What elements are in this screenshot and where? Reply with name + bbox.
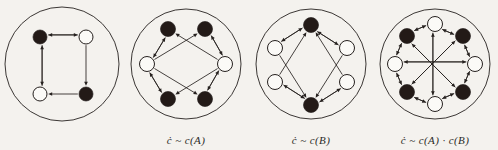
graph-edge: [319, 33, 338, 45]
edge-arrowhead: [298, 28, 302, 32]
graph-edge: [177, 69, 217, 94]
panel-caption-1: ċ ~ c(A): [124, 134, 248, 146]
panel-boundary-circle: [5, 7, 119, 121]
node-layer: [388, 17, 483, 112]
edge-arrowhead: [48, 92, 52, 96]
graph-node-white: [388, 57, 403, 72]
graph-canvas-2: [249, 2, 373, 126]
edge-layer: [280, 28, 343, 102]
graph-edge: [321, 88, 340, 100]
panel-caption-3: ċ ~ c(A) · c(B): [373, 134, 497, 146]
graph-node-black: [400, 85, 415, 100]
edge-arrowhead: [431, 33, 435, 37]
graph-edge: [281, 29, 300, 41]
panel-cover-graph-a: ċ ~ c(A): [124, 0, 248, 150]
graph-edge: [317, 34, 343, 74]
graph-node-white: [428, 17, 443, 32]
node-layer: [268, 18, 355, 113]
graph-edge: [154, 35, 195, 60]
node-layer: [140, 22, 233, 107]
graph-node-white: [428, 97, 443, 112]
panel-cover-graph-a-times-b: ċ ~ c(A) · c(B): [373, 0, 497, 150]
graph-edge: [211, 36, 221, 54]
edge-arrowhead: [84, 82, 88, 86]
graph-edge: [154, 38, 165, 56]
edge-arrowhead: [319, 98, 323, 102]
graph-node-black: [456, 29, 471, 44]
graph-node-white: [468, 57, 483, 72]
graph-node-black: [400, 29, 415, 44]
graph-edge: [413, 45, 455, 87]
graph-node-black: [456, 85, 471, 100]
graph-node-black: [198, 92, 213, 107]
edge-layer: [40, 33, 88, 96]
panel-cover-graph-b: ċ ~ c(B): [249, 0, 373, 150]
graph-node-white: [268, 41, 283, 56]
graph-node-black: [304, 98, 319, 113]
graph-edge: [280, 55, 306, 95]
graph-node-white: [33, 87, 47, 101]
graph-node-black: [79, 87, 93, 101]
graph-canvas-0: [0, 2, 124, 126]
graph-node-black: [161, 92, 176, 107]
graph-canvas-1: [124, 2, 248, 126]
panel-base-directed-4-cycle: [0, 0, 124, 150]
graph-node-white: [79, 30, 93, 44]
graph-node-white: [268, 75, 283, 90]
graph-canvas-3: [373, 2, 497, 126]
graph-node-white: [140, 57, 155, 72]
graph-edge: [151, 74, 162, 92]
graph-edge: [207, 72, 217, 90]
panel-caption-2: ċ ~ c(B): [249, 134, 373, 146]
graph-node-white: [340, 41, 355, 56]
edge-arrowhead: [74, 33, 78, 37]
graph-node-white: [340, 75, 355, 90]
edge-arrowhead: [462, 60, 466, 64]
graph-node-white: [218, 57, 233, 72]
graph-node-black: [161, 22, 176, 37]
edge-layer: [150, 33, 223, 94]
graph-node-black: [33, 30, 47, 44]
graph-node-black: [198, 22, 213, 37]
graph-covers-figure: ċ ~ c(A) ċ ~ c(B) ċ ~ c(A) · c(B): [0, 0, 498, 150]
edge-arrowhead: [40, 82, 44, 86]
graph-edge: [283, 85, 302, 97]
graph-node-black: [304, 18, 319, 33]
